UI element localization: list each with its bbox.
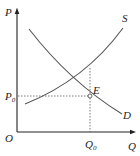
x-axis-label: Q (128, 140, 136, 152)
equilibrium-point-e (88, 94, 92, 98)
p0-label: P0 (4, 90, 16, 104)
supply-label: S (122, 12, 128, 24)
supply-curve (25, 28, 123, 104)
demand-curve (29, 29, 122, 114)
point-e-label: E (92, 84, 100, 96)
origin-label: O (5, 132, 13, 144)
demand-label: D (122, 109, 131, 121)
supply-demand-diagram: P O Q S D E P0 Q0 (0, 0, 140, 156)
y-axis-label: P (4, 6, 12, 18)
q0-label: Q0 (85, 138, 97, 152)
